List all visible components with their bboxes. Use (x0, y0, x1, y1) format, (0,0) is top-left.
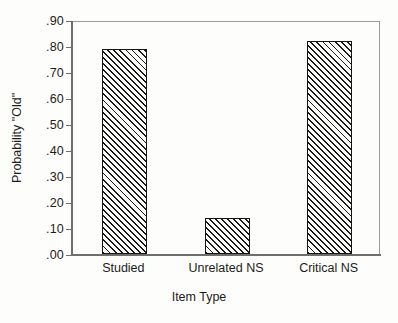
bars-container (73, 22, 379, 254)
y-axis-tick-label: .90 (46, 15, 64, 28)
bar-chart-figure: Probability "Old" .00.10.20.30.40.50.60.… (0, 0, 398, 323)
y-axis-tick-label: .80 (46, 41, 64, 54)
y-axis-tick-label: .00 (46, 249, 64, 262)
y-axis-tick-label: .50 (46, 119, 64, 132)
bar-critical-ns (307, 41, 352, 254)
y-axis-tick-label: .40 (46, 145, 64, 158)
y-axis-tick-label: .30 (46, 171, 64, 184)
x-axis-label-critical-ns: Critical NS (269, 262, 389, 276)
y-axis-tick-label: .20 (46, 197, 64, 210)
y-axis-tick-label: .60 (46, 93, 64, 106)
plot-area (72, 21, 380, 255)
y-axis-tick-label: .70 (46, 67, 64, 80)
x-axis-line (71, 254, 381, 256)
bar-unrelated-ns (205, 218, 250, 254)
bar-studied (102, 49, 147, 254)
y-axis-title: Probability "Old" (6, 0, 28, 276)
x-axis-title: Item Type (0, 290, 398, 304)
y-axis-title-text: Probability "Old" (10, 93, 24, 183)
y-axis-line (71, 21, 73, 256)
y-axis-tick-label: .10 (46, 223, 64, 236)
